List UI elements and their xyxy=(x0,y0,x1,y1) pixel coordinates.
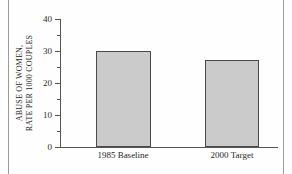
y-axis-title-line-2: RATE PER 1000 COUPLES xyxy=(25,35,35,131)
y-tick-label-10: 10 xyxy=(43,111,52,120)
y-tick-0 xyxy=(55,147,60,148)
figure-left-border xyxy=(8,0,9,174)
y-tick-minor-35 xyxy=(57,35,60,36)
y-tick-label-0: 0 xyxy=(48,143,53,152)
plot-area: 40 30 20 10 0 1985 Baseline 2000 Target xyxy=(60,19,278,147)
bar-1985-baseline xyxy=(96,51,151,147)
y-tick-minor-25 xyxy=(57,67,60,68)
y-tick-minor-5 xyxy=(57,131,60,132)
y-tick-10 xyxy=(55,115,60,116)
y-tick-label-40: 40 xyxy=(43,15,52,24)
x-tick-label-2000-target: 2000 Target xyxy=(211,151,254,160)
y-axis-line xyxy=(60,19,61,148)
x-axis-line xyxy=(60,147,278,148)
y-tick-30 xyxy=(55,51,60,52)
x-tick-label-1985-baseline: 1985 Baseline xyxy=(97,151,148,160)
bar-chart-figure: ABUSE OF WOMEN, RATE PER 1000 COUPLES 40… xyxy=(0,0,292,174)
bar-2000-target xyxy=(205,60,259,147)
y-axis-title-line-1: ABUSE OF WOMEN, xyxy=(15,45,25,121)
figure-right-border xyxy=(283,0,284,174)
y-tick-40 xyxy=(55,19,60,20)
y-tick-label-30: 30 xyxy=(43,47,52,56)
y-tick-minor-15 xyxy=(57,99,60,100)
y-tick-20 xyxy=(55,83,60,84)
y-axis-title: ABUSE OF WOMEN, RATE PER 1000 COUPLES xyxy=(12,19,38,147)
y-tick-label-20: 20 xyxy=(43,79,52,88)
